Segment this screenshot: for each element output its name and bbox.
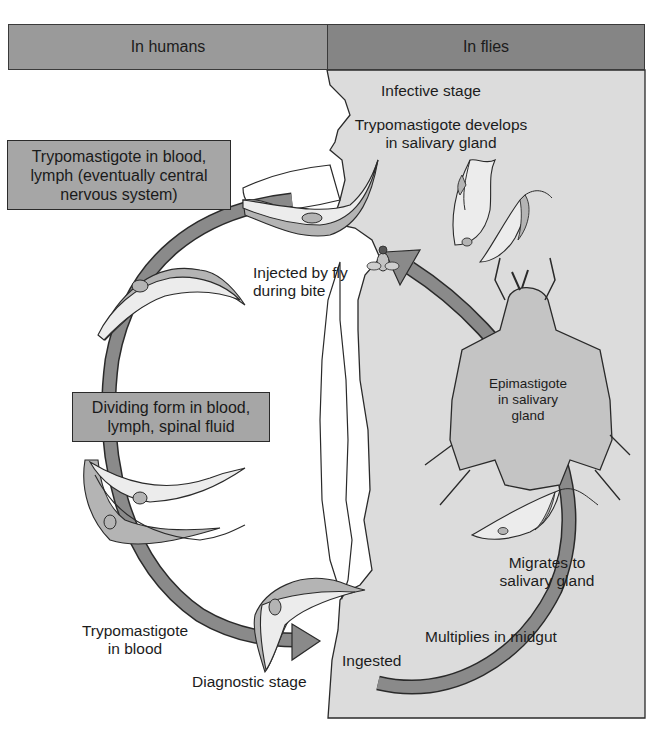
develops-line-2: in salivary gland — [335, 134, 547, 152]
header-in-flies: In flies — [327, 24, 645, 70]
label-ingested: Ingested — [342, 652, 401, 670]
box-trypomastigote-blood-lymph: Trypomastigote in blood, lymph (eventual… — [7, 140, 231, 210]
label-injected-by-fly: Injected by fly during bite — [253, 264, 348, 300]
epi-line-1: Epimastigote — [478, 376, 578, 392]
migrates-line-2: salivary gland — [488, 572, 606, 590]
epi-line-3: gland — [478, 408, 578, 424]
human-cycle-arrowhead — [292, 624, 320, 660]
label-epimastigote: Epimastigote in salivary gland — [478, 376, 578, 424]
label-diagnostic-stage: Diagnostic stage — [192, 673, 307, 691]
box-dividing-form: Dividing form in blood, lymph, spinal fl… — [72, 392, 270, 442]
header-in-flies-label: In flies — [463, 38, 509, 56]
header-in-humans-label: In humans — [131, 38, 206, 56]
human-arm-outline — [320, 262, 352, 598]
label-trypomastigote-develops: Trypomastigote develops in salivary glan… — [335, 116, 547, 152]
label-migrates: Migrates to salivary gland — [488, 554, 606, 590]
box-top-line-2: lymph (eventually central — [8, 166, 230, 185]
header-in-humans: In humans — [8, 24, 327, 70]
box-middle-line-2: lymph, spinal fluid — [73, 417, 269, 436]
trypanosome-life-cycle-diagram: In humans In flies Trypomastigote in blo… — [0, 0, 660, 738]
label-trypomastigote-in-blood: Trypomastigote in blood — [70, 622, 200, 658]
box-top-line-1: Trypomastigote in blood, — [8, 147, 230, 166]
trypo-blood-line-1: Trypomastigote — [70, 622, 200, 640]
epi-line-2: in salivary — [478, 392, 578, 408]
injected-line-1: Injected by fly — [253, 264, 348, 282]
box-top-line-3: nervous system) — [8, 185, 230, 204]
label-multiplies-in-midgut: Multiplies in midgut — [425, 628, 557, 646]
trypo-blood-line-2: in blood — [70, 640, 200, 658]
label-infective-stage: Infective stage — [381, 82, 481, 100]
injected-line-2: during bite — [253, 282, 348, 300]
box-middle-line-1: Dividing form in blood, — [73, 398, 269, 417]
dividing-form-organism — [84, 460, 245, 544]
develops-line-1: Trypomastigote develops — [335, 116, 547, 134]
migrates-line-1: Migrates to — [488, 554, 606, 572]
